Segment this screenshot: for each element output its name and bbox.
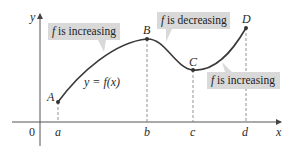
svg-text:f is increasing: f is increasing <box>211 74 275 87</box>
curve-label: y = f(x) <box>83 75 120 89</box>
point-d-marker <box>244 26 248 30</box>
callout-decreasing: f is decreasing <box>157 12 230 42</box>
callout-increasing-right: f is increasing <box>207 62 280 89</box>
point-label-c: C <box>189 55 198 69</box>
point-label-b: B <box>143 23 151 37</box>
tick-label-b: b <box>144 125 150 139</box>
origin-label: 0 <box>29 125 35 139</box>
y-axis-label: y <box>29 10 36 24</box>
point-b-marker <box>145 37 149 41</box>
point-label-a: A <box>46 90 55 104</box>
svg-text:f is decreasing: f is decreasing <box>161 14 227 27</box>
point-label-d: D <box>241 12 251 26</box>
callout-text: is increasing <box>214 74 275 87</box>
tick-label-d: d <box>242 125 249 139</box>
tick-label-c: c <box>190 125 196 139</box>
callout-increasing-left: f is increasing <box>48 23 120 52</box>
point-a-marker <box>56 100 60 104</box>
svg-text:f is increasing: f is increasing <box>52 25 116 38</box>
callout-text: is increasing <box>55 25 116 38</box>
x-axis-label: x <box>275 125 282 139</box>
tick-label-a: a <box>55 125 61 139</box>
callout-text: is decreasing <box>164 14 227 27</box>
increasing-decreasing-function-diagram: y x 0 a b c d f is increasing f is decre… <box>0 0 293 148</box>
